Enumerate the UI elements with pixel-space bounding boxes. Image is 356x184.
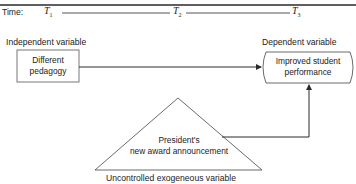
dependent-line2: performance [262, 67, 354, 78]
time-point-t2: T2 [173, 5, 182, 18]
independent-heading: Independent variable [6, 37, 86, 47]
dependent-heading: Dependent variable [262, 37, 337, 47]
exogenous-caption: Uncontrolled exogeneous variable [106, 173, 236, 183]
time-point-t3: T3 [292, 5, 301, 18]
exogenous-triangle-text: President's new award announcement [120, 135, 238, 157]
exogenous-line1: President's [120, 135, 238, 146]
independent-box-text: Different pedagogy [17, 55, 79, 77]
independent-line2: pedagogy [17, 66, 79, 77]
exogenous-line2: new award announcement [120, 146, 238, 157]
dependent-box-text: Improved student performance [262, 56, 354, 78]
time-point-t1: T1 [44, 5, 53, 18]
timeline-label: Time: [2, 7, 23, 17]
exogenous-triangle [95, 98, 262, 170]
exogenous-arrow [222, 85, 309, 137]
dependent-line1: Improved student [262, 56, 354, 67]
independent-line1: Different [17, 55, 79, 66]
